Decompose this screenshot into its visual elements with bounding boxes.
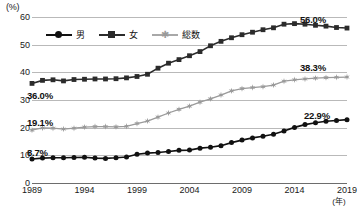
data-point-square bbox=[292, 21, 297, 26]
data-point-square bbox=[103, 77, 108, 82]
series-男 bbox=[30, 117, 350, 161]
data-point-square bbox=[156, 66, 161, 71]
data-point-square bbox=[345, 26, 350, 31]
y-axis-unit: (%) bbox=[6, 2, 19, 12]
annotation-female-start: 36.0% bbox=[27, 90, 53, 101]
data-point-square bbox=[145, 72, 150, 77]
data-point-circle bbox=[229, 140, 234, 145]
data-point-star bbox=[155, 114, 161, 120]
data-point-square bbox=[124, 75, 129, 80]
data-point-circle bbox=[219, 143, 224, 148]
data-point-square bbox=[82, 77, 87, 82]
data-point-circle bbox=[345, 117, 350, 122]
data-point-square bbox=[250, 30, 255, 35]
x-axis-tick: 2004 bbox=[179, 185, 199, 195]
data-point-circle bbox=[177, 148, 182, 153]
x-axis-tick: 1994 bbox=[74, 185, 94, 195]
data-point-circle bbox=[124, 154, 129, 159]
data-point-circle bbox=[135, 152, 140, 157]
data-point-square bbox=[261, 27, 266, 32]
data-point-circle bbox=[208, 145, 213, 150]
legend-label-male: 男 bbox=[76, 28, 85, 41]
data-point-square bbox=[229, 35, 234, 40]
y-axis-tick: 50 bbox=[20, 40, 30, 50]
plot-area bbox=[32, 17, 347, 183]
data-point-square bbox=[72, 77, 77, 82]
data-point-circle bbox=[156, 150, 161, 155]
annotation-female-end: 56.0% bbox=[300, 14, 326, 25]
chart-legend: 男 女 ✱ 総数 bbox=[46, 28, 200, 41]
data-point-circle bbox=[51, 155, 56, 160]
x-axis-tick: 1989 bbox=[22, 185, 42, 195]
y-axis-tick: 60 bbox=[20, 12, 30, 22]
data-point-square bbox=[135, 74, 140, 79]
x-axis-tick: 2009 bbox=[232, 185, 252, 195]
data-point-circle bbox=[187, 148, 192, 153]
x-axis-unit: (年) bbox=[332, 195, 345, 206]
x-axis-tick: 2014 bbox=[284, 185, 304, 195]
legend-item-total: ✱ 総数 bbox=[152, 28, 200, 41]
series-layer bbox=[32, 17, 347, 183]
data-point-square bbox=[177, 57, 182, 62]
data-point-circle bbox=[82, 155, 87, 160]
gridline bbox=[32, 183, 347, 184]
annotation-male-end: 22.9% bbox=[304, 110, 330, 121]
data-point-square bbox=[282, 22, 287, 27]
data-point-circle bbox=[72, 155, 77, 160]
annotation-male-start: 8.7% bbox=[27, 147, 48, 158]
data-point-circle bbox=[261, 134, 266, 139]
x-axis-tick: 2019 bbox=[337, 185, 357, 195]
y-axis-tick: 40 bbox=[20, 67, 30, 77]
data-point-square bbox=[166, 61, 171, 66]
data-point-square bbox=[240, 32, 245, 37]
y-axis-tick-labels: 6050403020100 bbox=[0, 17, 30, 183]
data-point-circle bbox=[166, 149, 171, 154]
data-point-circle bbox=[198, 146, 203, 151]
data-point-circle bbox=[271, 132, 276, 137]
data-point-circle bbox=[103, 156, 108, 161]
data-point-square bbox=[30, 81, 35, 86]
legend-item-male: 男 bbox=[46, 28, 85, 41]
data-point-square bbox=[93, 77, 98, 82]
data-point-circle bbox=[334, 118, 339, 123]
data-point-circle bbox=[61, 155, 66, 160]
legend-label-female: 女 bbox=[129, 28, 138, 41]
series-line bbox=[32, 120, 347, 159]
data-point-square bbox=[198, 49, 203, 54]
data-point-star bbox=[218, 92, 224, 98]
square-marker-icon bbox=[99, 30, 125, 40]
legend-item-female: 女 bbox=[99, 28, 138, 41]
series-総数 bbox=[29, 74, 350, 134]
line-chart: (%) 6050403020100 1989199419992004200920… bbox=[0, 0, 357, 207]
data-point-square bbox=[61, 79, 66, 84]
data-point-square bbox=[114, 76, 119, 81]
data-point-circle bbox=[282, 128, 287, 133]
data-point-circle bbox=[93, 156, 98, 161]
circle-marker-icon bbox=[46, 30, 72, 40]
data-point-square bbox=[334, 25, 339, 30]
data-point-square bbox=[40, 78, 45, 83]
data-point-circle bbox=[250, 135, 255, 140]
star-marker-icon: ✱ bbox=[152, 30, 178, 40]
legend-label-total: 総数 bbox=[182, 28, 200, 41]
data-point-square bbox=[51, 77, 56, 82]
data-point-square bbox=[271, 25, 276, 30]
annotation-total-start: 19.1% bbox=[27, 117, 53, 128]
data-point-square bbox=[187, 53, 192, 58]
data-point-square bbox=[219, 39, 224, 44]
data-point-circle bbox=[145, 151, 150, 156]
data-point-circle bbox=[292, 125, 297, 130]
x-axis-tick: 1999 bbox=[127, 185, 147, 195]
annotation-total-end: 38.3% bbox=[300, 62, 326, 73]
data-point-circle bbox=[240, 138, 245, 143]
data-point-square bbox=[208, 43, 213, 48]
data-point-circle bbox=[303, 122, 308, 127]
data-point-circle bbox=[114, 155, 119, 160]
